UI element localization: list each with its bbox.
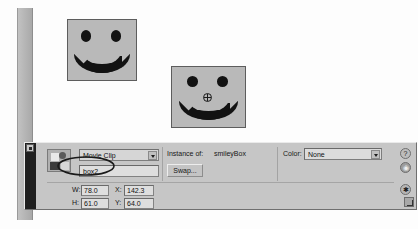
info-icon[interactable]: ◉ — [400, 162, 411, 173]
instance-name-input[interactable]: box2 — [79, 165, 159, 177]
smiley-right-eye-icon — [217, 76, 229, 87]
options-icon[interactable]: ✱ — [400, 184, 411, 195]
thumb-shape-2 — [59, 152, 66, 159]
smiley-left-eye-icon — [81, 30, 91, 41]
panel-drag-gripper[interactable] — [25, 143, 36, 209]
x-input[interactable]: 142.3 — [124, 185, 154, 196]
height-input[interactable]: 61.0 — [81, 198, 109, 209]
stage-object-smiley-1[interactable] — [67, 19, 137, 81]
flash-stage: Movie Clip box2 Instance of: smileyBox S… — [0, 0, 418, 229]
smiley-left-eye-icon — [187, 76, 199, 87]
y-label: Y: — [115, 199, 121, 206]
stage-object-smiley-2[interactable] — [171, 66, 246, 128]
section-divider — [277, 147, 278, 181]
smiley-mouth-icon — [74, 44, 130, 73]
section-divider — [162, 147, 163, 181]
thumb-shape-3 — [50, 162, 60, 170]
color-effect-value: None — [308, 151, 325, 158]
panel-collapse-button[interactable] — [26, 144, 34, 152]
smiley-right-eye-icon — [111, 30, 121, 41]
instance-of-label: Instance of: — [167, 150, 203, 157]
panel-horizontal-divider — [47, 182, 394, 183]
chevron-down-icon[interactable] — [371, 150, 380, 159]
collapse-arrow-icon — [29, 147, 32, 150]
width-input[interactable]: 78.0 — [81, 185, 109, 196]
color-effect-select[interactable]: None — [304, 148, 382, 160]
symbol-behavior-value: Movie Clip — [83, 152, 116, 159]
x-label: X: — [115, 186, 122, 193]
property-inspector-panel: Movie Clip box2 Instance of: smileyBox S… — [24, 142, 417, 210]
smiley-mouth-icon — [179, 91, 239, 120]
symbol-thumbnail-icon — [47, 149, 71, 172]
height-label: H: — [72, 199, 79, 206]
chevron-down-icon[interactable] — [148, 151, 157, 160]
color-label: Color: — [283, 150, 302, 157]
panel-resize-grip[interactable] — [404, 197, 414, 207]
swap-button[interactable]: Swap... — [167, 164, 203, 177]
help-icon[interactable]: ? — [400, 148, 411, 159]
thumb-shape-4 — [61, 162, 69, 170]
y-input[interactable]: 64.0 — [124, 198, 154, 209]
width-label: W: — [72, 186, 80, 193]
symbol-behavior-select[interactable]: Movie Clip — [79, 149, 159, 161]
thumb-shape-1 — [51, 153, 59, 161]
property-inspector-body: Movie Clip box2 Instance of: smileyBox S… — [36, 143, 416, 209]
instance-of-value: smileyBox — [214, 150, 246, 157]
